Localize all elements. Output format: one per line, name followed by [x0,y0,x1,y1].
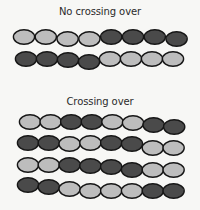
light-allele-bead [142,141,163,155]
light-allele-bead [79,32,100,46]
dark-allele-bead [59,158,80,172]
light-allele-bead [17,158,38,172]
dark-allele-bead [163,184,184,198]
chromosome-beads [0,0,200,210]
dark-allele-bead [101,30,122,44]
light-allele-bead [99,52,120,66]
light-allele-bead [35,30,56,44]
dark-allele-bead [17,178,38,192]
light-allele-bead [59,182,80,196]
dark-allele-bead [36,52,57,66]
light-allele-bead [80,184,101,198]
dark-allele-bead [61,115,82,129]
dark-allele-bead [142,184,163,198]
light-allele-bead [122,116,143,130]
light-allele-bead [163,141,184,155]
dark-allele-bead [38,180,59,194]
dark-allele-bead [164,120,185,134]
light-allele-bead [59,137,80,151]
light-allele-bead [142,163,163,177]
dark-allele-bead [38,136,59,150]
chromosome-crossover-4 [17,178,184,198]
light-allele-bead [162,52,183,66]
dark-allele-bead [166,32,187,46]
light-allele-bead [13,30,34,44]
dark-allele-bead [81,115,102,129]
dark-allele-bead [122,30,143,44]
light-allele-bead [102,115,123,129]
light-allele-bead [141,52,162,66]
light-allele-bead [57,32,78,46]
dark-allele-bead [17,136,38,150]
dark-allele-bead [80,159,101,173]
dark-allele-bead [57,53,78,67]
light-allele-bead [121,184,142,198]
chromosome-crossover-2 [17,136,184,155]
chromosome-no-crossover-1 [13,30,187,46]
dark-allele-bead [121,163,142,177]
crossing-over-diagram: No crossing over Crossing over [0,0,200,210]
light-allele-bead [163,163,184,177]
chromosome-no-crossover-2 [15,52,183,69]
chromosome-crossover-3 [17,158,184,177]
light-allele-bead [101,184,122,198]
light-allele-bead [120,52,141,66]
chromosome-crossover-1 [19,115,184,134]
dark-allele-bead [101,136,122,150]
light-allele-bead [38,158,59,172]
dark-allele-bead [143,118,164,132]
dark-allele-bead [144,30,165,44]
light-allele-bead [80,136,101,150]
light-allele-bead [40,115,61,129]
light-allele-bead [19,115,40,129]
dark-allele-bead [15,52,36,66]
dark-allele-bead [121,137,142,151]
dark-allele-bead [101,160,122,174]
dark-allele-bead [78,55,99,69]
